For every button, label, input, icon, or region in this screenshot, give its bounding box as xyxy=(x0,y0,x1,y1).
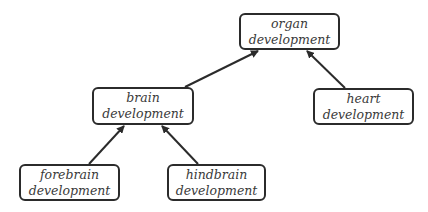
node-label-line1: heart xyxy=(347,91,381,107)
edge-heart-to-organ xyxy=(307,51,345,88)
node-label-line1: hindbrain xyxy=(186,167,248,183)
edge-forebrain-to-brain xyxy=(89,126,124,164)
edge-brain-to-organ xyxy=(185,51,258,87)
node-label-line2: development xyxy=(249,32,331,48)
node-label-line2: development xyxy=(323,107,405,123)
node-label-line2: development xyxy=(176,183,258,199)
node-label-line2: development xyxy=(29,183,111,199)
node-label-line1: organ xyxy=(271,16,308,32)
node-label-line1: brain xyxy=(126,90,159,106)
node-label-line2: development xyxy=(102,106,184,122)
node-brain-development: brain development xyxy=(92,87,194,125)
node-organ-development: organ development xyxy=(239,13,340,50)
diagram-canvas: organ development brain development hear… xyxy=(0,0,428,212)
node-forebrain-development: forebrain development xyxy=(19,164,120,201)
node-label-line1: forebrain xyxy=(40,167,99,183)
edge-hindbrain-to-brain xyxy=(162,126,198,164)
node-heart-development: heart development xyxy=(313,88,414,125)
node-hindbrain-development: hindbrain development xyxy=(167,164,266,201)
